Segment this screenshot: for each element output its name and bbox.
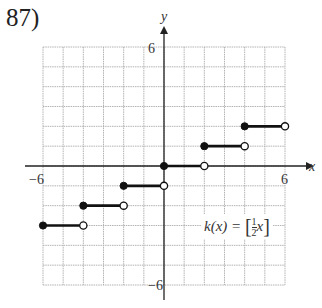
y-max-tick: 6	[148, 41, 155, 56]
x-axis-label: x	[308, 159, 316, 174]
y-min-tick: −6	[148, 278, 163, 293]
y-axis-label: y	[159, 9, 168, 24]
step-function-graph: x y −6 6 6 −6	[0, 0, 322, 308]
closed-point-icon	[120, 182, 127, 189]
closed-point-icon	[201, 143, 208, 150]
function-label: k(x) = [12x]	[201, 214, 273, 239]
axes: x y −6 6 6 −6	[25, 9, 316, 300]
open-point-icon	[160, 182, 167, 189]
open-point-icon	[120, 202, 127, 209]
closed-point-icon	[241, 123, 248, 130]
closed-point-icon	[39, 222, 46, 229]
open-point-icon	[80, 222, 87, 229]
open-point-icon	[241, 143, 248, 150]
x-max-tick: 6	[281, 172, 288, 187]
open-point-icon	[281, 123, 288, 130]
closed-point-icon	[160, 162, 167, 169]
open-point-icon	[201, 162, 208, 169]
x-min-tick: −6	[29, 172, 44, 187]
fn-prefix: k(x) =	[204, 218, 245, 234]
y-axis-arrow-icon	[160, 26, 168, 34]
closed-point-icon	[80, 202, 87, 209]
